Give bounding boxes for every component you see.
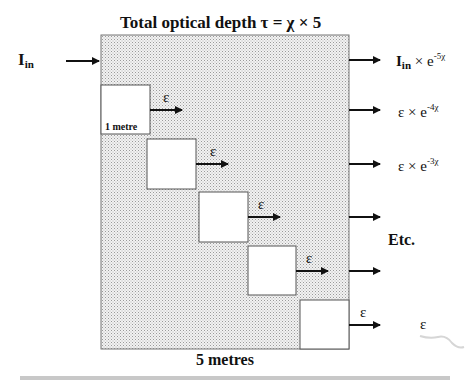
unit-cell-5 (300, 300, 349, 349)
output-label-6: ε (420, 317, 426, 332)
output-label-3: ε × e-3χ (398, 157, 438, 174)
emission-label-5: ε (360, 305, 366, 320)
etc-label: Etc. (388, 232, 415, 248)
output-3-exp: -3χ (427, 156, 439, 166)
diagram-title: Total optical depth τ = χ × 5 (120, 14, 321, 31)
unit-cell-label: 1 metre (105, 122, 137, 132)
page-divider (20, 376, 450, 380)
output-1-sub: in (402, 59, 411, 71)
emission-label-1: ε (163, 90, 169, 105)
emission-label-3: ε (258, 197, 264, 212)
output-2-exp: -4χ (427, 102, 439, 112)
input-label: Iin (18, 51, 34, 70)
output-3-op: × e (404, 158, 427, 174)
output-label-2: ε × e-4χ (398, 103, 438, 120)
unit-cell-2 (147, 139, 196, 189)
input-label-sub: in (25, 58, 34, 70)
output-1-op: × e (411, 53, 434, 69)
emission-label-2: ε (210, 144, 216, 159)
output-1-exp: -5χ (434, 51, 446, 61)
output-2-op: × e (404, 104, 427, 120)
output-label-1: Iin × e-5χ (396, 52, 445, 71)
width-label: 5 metres (196, 352, 254, 368)
input-label-base: I (18, 50, 25, 69)
emission-label-4: ε (306, 251, 312, 266)
unit-cell-4 (248, 246, 296, 295)
scan-smudge (420, 336, 464, 348)
unit-cell-3 (199, 192, 248, 242)
